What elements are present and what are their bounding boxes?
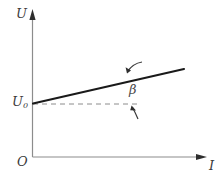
arrow-to-dashed-line [130,106,138,119]
x-axis-label: I [209,159,214,172]
graph-svg [0,0,224,176]
y-intercept-symbol: U [12,94,23,109]
x-axis-arrowhead [196,154,207,160]
arrow-to-line [126,62,142,74]
angle-label-beta: β [129,83,137,96]
origin-label: O [17,155,28,168]
y-intercept-label: U0 [12,95,28,110]
figure-canvas: U U0 O I β [0,0,224,176]
y-intercept-subscript: 0 [23,101,28,110]
y-axis-arrowhead [29,9,35,20]
y-axis-label: U [16,7,27,20]
data-line [33,69,184,104]
